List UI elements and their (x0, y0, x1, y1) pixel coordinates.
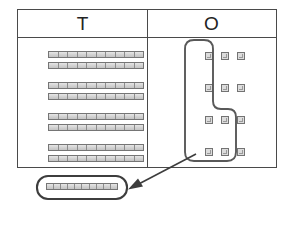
rod-segment (97, 83, 107, 88)
rod-segment (116, 125, 126, 130)
rod-segment (97, 94, 107, 99)
rod-segment (125, 94, 135, 99)
rod-segment (97, 125, 107, 130)
rod-segment (78, 52, 88, 57)
ten-rod (48, 155, 144, 162)
rod-segment (68, 114, 78, 119)
rod-segment (87, 63, 97, 68)
rod-segment (97, 145, 107, 150)
rod-segment (125, 114, 135, 119)
rod-segment (125, 63, 135, 68)
rod-segment (135, 125, 144, 130)
rod-segment (87, 52, 97, 57)
rod-segment (106, 52, 116, 57)
rod-segment (106, 156, 116, 161)
rod-segment (135, 114, 144, 119)
unit-cube (237, 52, 245, 60)
rod-segment (49, 52, 59, 57)
rod-segment (116, 83, 126, 88)
rod-segment (135, 52, 144, 57)
rod-segment (97, 184, 104, 189)
rod-segment (59, 145, 69, 150)
rod-segment (82, 184, 89, 189)
rod-segment (125, 156, 135, 161)
ten-rod (48, 124, 144, 131)
regroup-arrow-head (128, 179, 143, 190)
rod-segment (68, 145, 78, 150)
rod-segment (49, 145, 59, 150)
rod-segment (49, 94, 59, 99)
regrouped-result-group (36, 175, 128, 200)
ten-rod (48, 51, 144, 58)
rod-segment (116, 156, 126, 161)
rod-segment (104, 184, 111, 189)
rod-segment (59, 125, 69, 130)
rod-segment (97, 114, 107, 119)
rod-segment (116, 94, 126, 99)
rod-segment (49, 114, 59, 119)
unit-cube (205, 84, 213, 92)
unit-cube (221, 148, 229, 156)
rod-segment (87, 156, 97, 161)
rod-segment (78, 83, 88, 88)
rod-segment (61, 184, 68, 189)
rod-segment (90, 184, 97, 189)
rod-segment (49, 156, 59, 161)
rod-segment (78, 125, 88, 130)
rod-segment (78, 114, 88, 119)
unit-cube (221, 116, 229, 124)
rod-segment (97, 52, 107, 57)
unit-cube (205, 148, 213, 156)
ten-rods-group (18, 38, 147, 167)
rod-segment (54, 184, 61, 189)
rod-segment (59, 94, 69, 99)
rod-segment (87, 145, 97, 150)
unit-cubes-group (147, 38, 276, 167)
rod-segment (49, 83, 59, 88)
rod-segment (49, 63, 59, 68)
rod-segment (106, 125, 116, 130)
rod-segment (125, 83, 135, 88)
rod-segment (68, 52, 78, 57)
rod-segment (68, 184, 75, 189)
ten-rod (48, 144, 144, 151)
rod-segment (78, 94, 88, 99)
unit-cube (221, 84, 229, 92)
rod-segment (68, 156, 78, 161)
rod-segment (106, 83, 116, 88)
rod-segment (59, 52, 69, 57)
unit-cube (205, 52, 213, 60)
rod-segment (111, 184, 117, 189)
rod-segment (87, 125, 97, 130)
rod-segment (87, 83, 97, 88)
rod-segment (135, 156, 144, 161)
rod-segment (135, 83, 144, 88)
rod-segment (59, 156, 69, 161)
rod-segment (59, 83, 69, 88)
ten-rod (48, 82, 144, 89)
unit-cube (205, 116, 213, 124)
rod-segment (135, 145, 144, 150)
rod-segment (106, 63, 116, 68)
rod-segment (135, 94, 144, 99)
rod-segment (68, 94, 78, 99)
regrouped-ten-rod (46, 183, 118, 191)
result-ten-rod (46, 183, 118, 190)
rod-segment (116, 52, 126, 57)
unit-cube (221, 52, 229, 60)
ten-rod (48, 62, 144, 69)
rod-segment (78, 63, 88, 68)
rod-segment (106, 114, 116, 119)
rod-segment (68, 83, 78, 88)
rod-segment (68, 125, 78, 130)
rod-segment (78, 156, 88, 161)
rod-segment (125, 145, 135, 150)
unit-cube (237, 116, 245, 124)
ones-column-cell (147, 38, 276, 167)
rod-segment (68, 63, 78, 68)
rod-segment (97, 156, 107, 161)
rod-segment (87, 114, 97, 119)
rod-segment (47, 184, 54, 189)
rod-segment (116, 145, 126, 150)
rod-segment (106, 145, 116, 150)
